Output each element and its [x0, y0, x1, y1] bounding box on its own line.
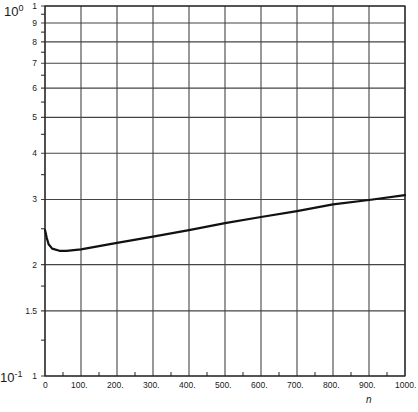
x-tick-label: 300. [143, 380, 160, 390]
y-tick-label: 6 [32, 83, 37, 93]
x-tick-label: 100. [71, 380, 88, 390]
y-tick-label: 1.5 [25, 306, 37, 316]
x-tick-label: 900. [359, 380, 376, 390]
x-tick-label: 200. [107, 380, 124, 390]
y-tick-label: 4 [32, 148, 37, 158]
decade-label-top: 100 [4, 3, 23, 19]
x-tick-label: 600. [251, 380, 268, 390]
y-tick-label: 8 [32, 37, 37, 47]
y-tick-labels: 11.5234567891 [25, 1, 37, 381]
y-tick-label: 3 [32, 194, 37, 204]
x-tick-label: 0 [43, 380, 48, 390]
grid-lines [41, 6, 405, 376]
y-tick-label: 1 [32, 371, 37, 381]
y-tick-label: 5 [32, 112, 37, 122]
x-tick-label: 700. [287, 380, 304, 390]
x-tick-label: 1000. [395, 380, 416, 390]
decade-label-bottom: 10-1 [0, 369, 22, 385]
y-tick-label: 7 [32, 58, 37, 68]
x-tick-label: 500. [215, 380, 232, 390]
x-tick-label: 800. [323, 380, 340, 390]
y-tick-label: 1 [32, 1, 37, 11]
y-tick-label: 2 [32, 260, 37, 270]
y-tick-label: 9 [32, 18, 37, 28]
x-tick-labels: 0100.200.300.400.500.600.700.800.900.100… [43, 380, 416, 390]
x-tick-label: 400. [179, 380, 196, 390]
x-axis-label: n [366, 394, 372, 405]
minor-ticks [41, 14, 387, 376]
log-line-chart: 11.5234567891 0100.200.300.400.500.600.7… [0, 0, 418, 412]
